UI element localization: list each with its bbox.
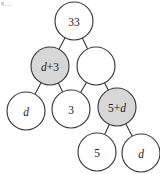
node-label: 5+d bbox=[108, 102, 126, 114]
tree-edge bbox=[105, 124, 110, 135]
tree-edge bbox=[104, 82, 108, 90]
node-label: d+3 bbox=[41, 61, 59, 73]
tree-node: d bbox=[7, 92, 45, 130]
tree-node: 5+d bbox=[98, 88, 136, 126]
tree-edge bbox=[59, 37, 66, 49]
tree-node: 3 bbox=[52, 90, 90, 128]
node-label: 33 bbox=[68, 16, 80, 28]
node-label: 3 bbox=[68, 104, 74, 116]
node-label: 5 bbox=[94, 147, 100, 159]
node-circle bbox=[77, 47, 115, 85]
tree-edge bbox=[58, 83, 63, 93]
tree-node: d+3 bbox=[31, 47, 69, 85]
tree-edge bbox=[82, 38, 88, 50]
tree-node: d bbox=[122, 134, 160, 172]
tree-node: 5 bbox=[78, 133, 116, 171]
tree-node bbox=[77, 47, 115, 85]
tree-edge bbox=[35, 82, 42, 94]
node-label: d bbox=[138, 148, 144, 160]
tree-canvas: 33d+3d35+d5d bbox=[0, 0, 160, 174]
tree-edge bbox=[80, 82, 86, 93]
tree-node: 33 bbox=[55, 2, 93, 40]
node-label: d bbox=[23, 106, 29, 118]
tree-edge bbox=[126, 123, 133, 136]
binary-tree-diagram: 33d+3d35+d5d bbox=[0, 0, 160, 174]
